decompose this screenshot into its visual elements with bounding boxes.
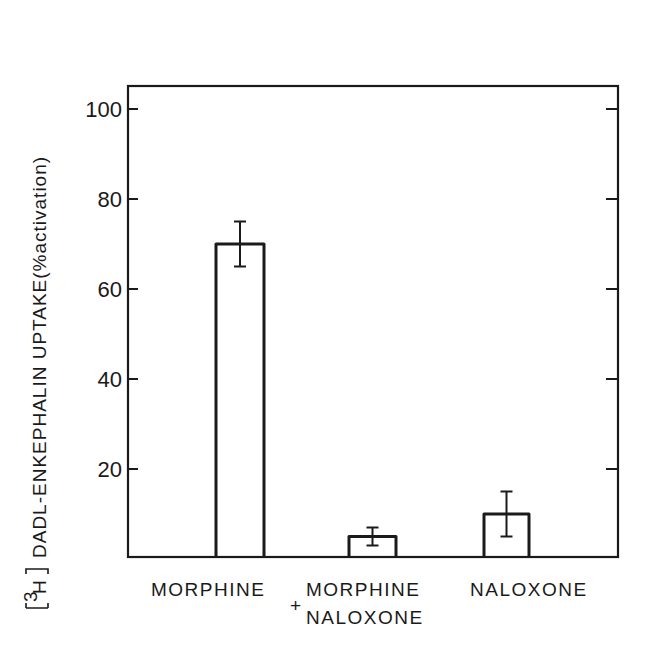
bar-group [216, 222, 264, 558]
isotope-symbol: H [29, 579, 50, 594]
bar-group [349, 528, 396, 558]
y-axis-ticks: 20406080100 [85, 97, 618, 482]
bar [216, 244, 264, 557]
plot-frame [128, 86, 618, 557]
x-category-label: MORPHINE [151, 579, 265, 600]
y-tick-label: 60 [98, 277, 122, 302]
y-tick-label: 100 [85, 97, 122, 122]
bar-chart: 20406080100 MORPHINEMORPHINE+NALOXONENAL… [0, 0, 646, 655]
y-axis-label: 3HDADL-ENKEPHALIN UPTAKE(%activation) [20, 156, 50, 608]
bar-group [484, 492, 529, 558]
plot-border [128, 86, 618, 557]
x-category-label: MORPHINE [306, 579, 420, 600]
plus-sign: + [290, 595, 303, 616]
bars [216, 222, 529, 558]
y-tick-label: 80 [98, 187, 122, 212]
y-axis-title: DADL-ENKEPHALIN UPTAKE(%activation) [29, 156, 50, 558]
y-tick-label: 20 [98, 457, 122, 482]
x-category-label-line2: NALOXONE [306, 607, 424, 628]
x-category-label: NALOXONE [470, 579, 588, 600]
x-axis-labels: MORPHINEMORPHINE+NALOXONENALOXONE [151, 579, 588, 628]
y-tick-label: 40 [98, 367, 122, 392]
